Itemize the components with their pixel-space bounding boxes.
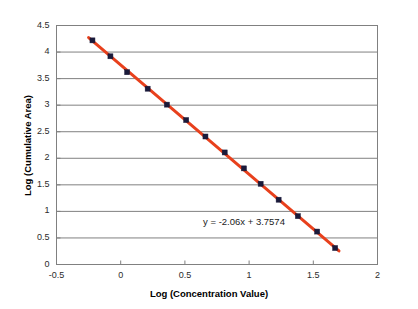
x-tick-label: 0 bbox=[101, 270, 141, 280]
trendline-equation-label: y = -2.06x + 3.7574 bbox=[203, 216, 285, 227]
data-point bbox=[145, 86, 150, 91]
data-point bbox=[241, 166, 246, 171]
plot-border bbox=[57, 26, 378, 265]
x-tick-label: 1 bbox=[229, 270, 269, 280]
x-tick-label: 2 bbox=[358, 270, 398, 280]
plot-frame bbox=[57, 26, 378, 265]
chart-container: 00.511.522.533.544.5 -0.500.511.52 Log (… bbox=[0, 0, 418, 309]
plot-area bbox=[0, 0, 418, 309]
data-point bbox=[164, 102, 169, 107]
y-axis-ticks bbox=[57, 26, 61, 265]
x-tick-label: 1.5 bbox=[293, 270, 333, 280]
y-tick-label: 0 bbox=[10, 259, 50, 269]
data-point bbox=[125, 70, 130, 75]
x-tick-label: -0.5 bbox=[37, 270, 77, 280]
data-point bbox=[108, 54, 113, 59]
data-point bbox=[184, 118, 189, 123]
x-axis-title: Log (Concentration Value) bbox=[0, 288, 418, 299]
data-point bbox=[295, 214, 300, 219]
x-axis-ticks bbox=[57, 261, 378, 265]
x-tick-label: 0.5 bbox=[165, 270, 205, 280]
y-axis-title: Log (Cumulative Area) bbox=[22, 56, 33, 236]
data-point bbox=[222, 150, 227, 155]
data-point bbox=[203, 134, 208, 139]
data-point bbox=[276, 197, 281, 202]
data-point bbox=[333, 246, 338, 251]
y-tick-label: 4.5 bbox=[10, 20, 50, 30]
data-point bbox=[90, 38, 95, 43]
data-point bbox=[258, 181, 263, 186]
data-point bbox=[315, 229, 320, 234]
gridlines bbox=[57, 26, 378, 238]
